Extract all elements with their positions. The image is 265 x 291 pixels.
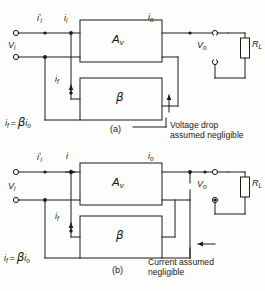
- node-dot-b-4: [69, 229, 72, 232]
- input-terminal-a-bottom: [13, 54, 18, 59]
- label-b-input-voltage: Vi: [8, 182, 15, 191]
- amplifier-block-a-label: Av: [112, 33, 124, 45]
- label-b-input-current: i: [66, 152, 68, 161]
- feedback-block-b-label: β: [116, 228, 124, 242]
- node-dot-a-5: [188, 31, 191, 34]
- node-dot-a-1: [43, 31, 46, 34]
- feedback-block-a-label: β: [116, 90, 124, 104]
- caption-b: (b): [112, 265, 123, 275]
- input-terminal-b-bottom: [13, 197, 18, 202]
- label-a-feedback-current: if: [55, 75, 59, 84]
- annotation-b-line1: Current assumed: [148, 257, 214, 267]
- node-dot-b-6: [203, 170, 206, 173]
- label-b-output-current: io: [148, 152, 154, 161]
- node-dot-b-7: [213, 198, 216, 201]
- figure-canvas: i′i ii io Vi Vo RL if if = βio Av β Volt…: [0, 0, 265, 291]
- annotation-a-line1: Voltage drop: [170, 120, 218, 130]
- label-a-input-current-prime: i′i: [37, 14, 42, 23]
- label-b-load-resistor: RL: [252, 179, 262, 188]
- annotation-b-line2: negligible: [148, 267, 184, 277]
- load-resistor-b-body: [241, 177, 250, 197]
- label-b-output-voltage: Vo: [197, 180, 207, 189]
- label-b-feedback-current: if: [55, 212, 59, 221]
- label-a-output-voltage: Vo: [197, 41, 207, 50]
- caption-a: (a): [110, 124, 121, 134]
- node-dot-a-4: [69, 91, 72, 94]
- input-terminal-b-top: [13, 169, 18, 174]
- annotation-a: Voltage drop assumed negligible: [170, 120, 244, 140]
- node-dot-b-1: [43, 170, 46, 173]
- annotation-a-line2: assumed negligible: [170, 130, 244, 140]
- circuit-linework: [0, 0, 265, 291]
- annotation-b: Current assumed negligible: [148, 257, 214, 277]
- amplifier-block-b-label: Av: [112, 176, 124, 188]
- label-a-input-voltage: Vi: [8, 41, 15, 50]
- label-b-input-current-prime: i′i: [37, 153, 42, 162]
- load-resistor-a-body: [241, 38, 250, 58]
- label-b-feedback-equation: if = βio: [4, 251, 30, 264]
- label-a-output-current: io: [148, 13, 154, 22]
- input-terminal-a-top: [13, 30, 18, 35]
- label-a-feedback-equation: if = βio: [5, 116, 31, 129]
- output-terminal-b-top: [212, 169, 217, 174]
- label-a-input-current: ii: [64, 14, 67, 23]
- label-a-load-resistor: RL: [252, 40, 262, 49]
